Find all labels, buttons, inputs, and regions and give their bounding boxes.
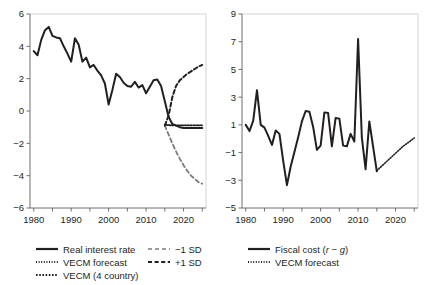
y-tick-label: 2 (19, 73, 24, 84)
x-tick-label: 1980 (235, 214, 256, 225)
y-tick-label: −3 (225, 175, 236, 186)
y-tick-label: 3 (231, 92, 236, 103)
y-tick-label: −5 (225, 202, 236, 213)
legend-label: VECM forecast (275, 257, 339, 268)
legend-label: VECM (4 country) (63, 270, 139, 281)
legend-label: −1 SD (175, 244, 202, 255)
legend-label: Fiscal cost (r − g) (275, 244, 348, 255)
x-tick-label: 2000 (310, 214, 331, 225)
x-tick-label: 1980 (23, 214, 44, 225)
y-tick-label: −6 (13, 202, 24, 213)
x-tick-label: 2010 (348, 214, 369, 225)
series-1-sd (165, 126, 202, 184)
x-tick-label: 1990 (61, 214, 82, 225)
y-tick-label: 9 (231, 8, 236, 19)
x-tick-label: 1990 (273, 214, 294, 225)
y-tick-label: −4 (13, 170, 24, 181)
legend-label: +1 SD (175, 257, 202, 268)
series-fiscal-cost-r-g (246, 39, 377, 185)
y-tick-label: −1 (225, 147, 236, 158)
series-1-sd (165, 65, 202, 126)
x-tick-label: 2000 (98, 214, 119, 225)
y-tick-label: 5 (231, 64, 236, 75)
left-plot-area: 6420−2−4−619801990200020102020Real inter… (0, 0, 212, 285)
legend-label: VECM forecast (63, 257, 127, 268)
y-tick-label: 1 (231, 119, 236, 130)
legend-label: Real interest rate (63, 244, 135, 255)
panel-fiscal-cost: 97531−1−3−519801990200020102020Fiscal co… (212, 0, 424, 285)
y-tick-label: 0 (19, 105, 24, 116)
x-tick-label: 2020 (173, 214, 194, 225)
y-tick-label: 7 (231, 36, 236, 47)
panel-real-interest-rate: 6420−2−4−619801990200020102020Real inter… (0, 0, 212, 285)
series-vecm-forecast (377, 138, 414, 171)
y-tick-label: −2 (13, 138, 24, 149)
series-real-interest-rate (34, 27, 203, 128)
figure-two-panel-chart: 6420−2−4−619801990200020102020Real inter… (0, 0, 424, 285)
y-tick-label: 4 (19, 41, 24, 52)
y-tick-label: 6 (19, 8, 24, 19)
x-tick-label: 2020 (385, 214, 406, 225)
x-tick-label: 2010 (136, 214, 157, 225)
right-plot-area: 97531−1−3−519801990200020102020Fiscal co… (212, 0, 424, 285)
